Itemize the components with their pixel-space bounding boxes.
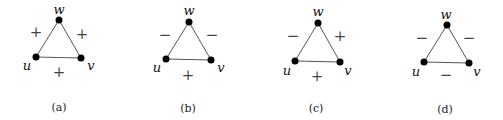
- vertex-w: [56, 17, 63, 24]
- vertex-w: [186, 19, 193, 26]
- edge-uv: [36, 57, 81, 58]
- edge-sign-uv: −: [440, 66, 453, 84]
- edge-uv: [295, 61, 340, 62]
- vertex-v: [208, 57, 215, 64]
- vertex-label-w: w: [312, 4, 323, 19]
- panel-caption: (b): [180, 102, 196, 115]
- vertex-label-v: v: [473, 64, 481, 79]
- panel-a: w u v + + + (a): [23, 2, 96, 114]
- edge-uv: [424, 62, 469, 63]
- panel-caption: (c): [309, 102, 324, 115]
- signed-triangles-figure: w u v + + + (a) w u v − − + (b) w u v − …: [0, 0, 503, 120]
- vertex-u: [292, 58, 299, 65]
- vertex-label-u: u: [23, 58, 31, 73]
- vertex-label-w: w: [440, 7, 451, 22]
- vertex-u: [421, 59, 428, 66]
- edge-sign-wv: −: [463, 29, 476, 47]
- edge-sign-uw: +: [30, 23, 43, 41]
- vertex-w: [315, 20, 322, 27]
- vertex-label-v: v: [217, 60, 225, 75]
- vertex-label-u: u: [283, 63, 291, 78]
- edge-sign-uv: +: [182, 66, 195, 84]
- vertex-w: [444, 22, 451, 29]
- edge-sign-wv: −: [206, 26, 219, 44]
- panel-d: w u v − − − (d): [412, 7, 482, 116]
- vertex-v: [78, 55, 85, 62]
- edge-sign-uw: −: [159, 26, 172, 44]
- vertex-u: [33, 54, 40, 61]
- edge-sign-wv: +: [76, 25, 89, 43]
- panel-caption: (d): [437, 103, 453, 116]
- edge-uv: [166, 59, 211, 60]
- vertex-u: [163, 56, 170, 63]
- vertex-label-u: u: [412, 64, 420, 79]
- edge-sign-uv: +: [311, 67, 324, 85]
- vertex-label-w: w: [183, 3, 194, 18]
- vertex-v: [337, 59, 344, 66]
- vertex-label-v: v: [87, 58, 95, 73]
- vertex-v: [466, 60, 473, 67]
- edge-sign-wv: +: [334, 27, 347, 45]
- vertex-label-w: w: [53, 2, 64, 17]
- edge-sign-uw: −: [287, 27, 300, 45]
- vertex-label-v: v: [344, 63, 352, 78]
- edge-sign-uv: +: [53, 63, 66, 81]
- panel-c: w u v − + + (c): [283, 4, 353, 115]
- panel-b: w u v − − + (b): [153, 3, 226, 115]
- vertex-label-u: u: [153, 60, 161, 75]
- panel-caption: (a): [51, 101, 66, 114]
- edge-sign-uw: −: [416, 29, 429, 47]
